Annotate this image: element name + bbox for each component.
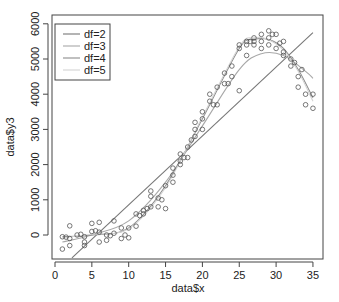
data-point [274,46,279,51]
data-point [149,189,154,194]
data-point [193,120,198,125]
x-tick-label: 5 [89,269,95,281]
scatter-plot: 05101520253035 0100020003000400050006000… [0,0,339,302]
data-point [311,106,316,111]
data-point [119,226,124,231]
y-tick-label: 0 [29,232,41,238]
y-tick-label: 4000 [29,82,41,106]
data-point [230,64,235,69]
data-point [163,206,168,211]
data-point [60,247,65,252]
data-point [67,243,72,248]
data-point [123,233,128,238]
data-point [156,205,161,210]
data-point [259,39,264,44]
data-point [134,224,139,229]
x-tick-label: 10 [123,269,135,281]
data-point [149,194,154,199]
data-point [119,236,124,241]
data-point [259,32,264,37]
data-point [289,64,294,69]
y-tick-label: 5000 [29,47,41,71]
x-axis: 05101520253035 [52,262,319,281]
data-point [171,166,176,171]
legend-label: df=3 [84,40,106,52]
data-point [97,220,102,225]
y-axis: 0100020003000400050006000 [29,12,48,239]
data-point [303,92,308,97]
data-point [259,46,264,51]
data-point [97,240,102,245]
data-point [207,92,212,97]
data-point [104,238,109,243]
y-axis-label: data$y3 [4,117,16,156]
data-point [303,102,308,107]
legend-label: df=5 [84,64,106,76]
data-point [171,180,176,185]
x-tick-label: 20 [196,269,208,281]
data-point [296,85,301,90]
x-tick-label: 35 [307,269,319,281]
x-tick-label: 30 [270,269,282,281]
data-point [137,213,142,218]
x-tick-label: 25 [233,269,245,281]
data-point [67,224,72,229]
data-point [200,110,205,115]
y-tick-label: 1000 [29,188,41,212]
data-point [266,29,271,34]
data-point [178,152,183,157]
y-tick-label: 3000 [29,117,41,141]
y-tick-label: 2000 [29,152,41,176]
data-point [266,43,271,48]
legend: df=2df=3df=4df=5 [55,24,110,80]
y-tick-label: 6000 [29,12,41,36]
x-tick-label: 0 [52,269,58,281]
data-point [200,127,205,132]
data-point [90,221,95,226]
data-point [160,198,165,203]
data-point [237,88,242,93]
x-tick-label: 15 [159,269,171,281]
legend-label: df=4 [84,52,106,64]
legend-label: df=2 [84,28,106,40]
data-point [244,53,249,58]
data-point [296,74,301,79]
x-axis-label: data$x [171,282,205,294]
